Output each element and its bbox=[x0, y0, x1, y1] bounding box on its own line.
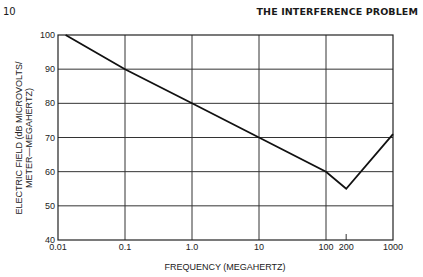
x-tick-label: 1000 bbox=[383, 242, 403, 252]
y-axis-label: ELECTRIC FIELD (dB MICROVOLTS/ METER—MEG… bbox=[14, 61, 34, 214]
y-axis-label-line2: METER—MEGAHERTZ) bbox=[24, 88, 34, 188]
x-tick-label: 200 bbox=[339, 242, 354, 252]
x-tick-label: 10 bbox=[254, 242, 264, 252]
y-tick-labels: 405060708090100 bbox=[40, 30, 55, 245]
chart: 405060708090100 0.010.11.0101002001000 F… bbox=[0, 0, 423, 277]
x-tick-label: 0.01 bbox=[49, 242, 67, 252]
y-tick-label: 100 bbox=[40, 30, 55, 40]
x-tick-labels: 0.010.11.0101002001000 bbox=[49, 242, 403, 252]
x-tick-label: 100 bbox=[318, 242, 333, 252]
x-tick-label: 1.0 bbox=[186, 242, 199, 252]
series-line bbox=[66, 35, 393, 189]
y-tick-label: 90 bbox=[45, 64, 55, 74]
grid bbox=[58, 35, 393, 240]
y-tick-label: 60 bbox=[45, 167, 55, 177]
x-axis-label: FREQUENCY (MEGAHERTZ) bbox=[164, 262, 285, 272]
x-tick-label: 0.1 bbox=[119, 242, 132, 252]
y-tick-label: 70 bbox=[45, 133, 55, 143]
y-tick-label: 80 bbox=[45, 98, 55, 108]
y-tick-label: 50 bbox=[45, 201, 55, 211]
y-axis-label-line1: ELECTRIC FIELD (dB MICROVOLTS/ bbox=[14, 61, 24, 214]
